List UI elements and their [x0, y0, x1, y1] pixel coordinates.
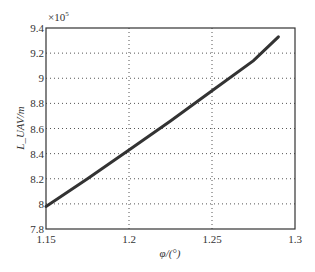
y-multiplier: ×105 [48, 10, 69, 23]
x-axis-ticks: 1.151.21.251.3 [36, 233, 302, 245]
x-tick-label: 1.2 [122, 233, 136, 245]
y-tick-label: 9.2 [30, 47, 44, 59]
y-tick-label: 8.6 [30, 123, 44, 135]
y-tick-label: 7.8 [30, 223, 44, 235]
y-axis-label: L_UAV/m [14, 106, 26, 151]
y-tick-label: 9.4 [30, 22, 44, 34]
x-tick-label: 1.3 [288, 233, 302, 245]
y-tick-label: 8 [39, 198, 45, 210]
x-tick-label: 1.25 [202, 233, 222, 245]
y-tick-label: 8.4 [30, 148, 44, 160]
data-line [46, 37, 278, 207]
y-tick-label: 8.2 [30, 173, 44, 185]
y-axis-ticks: 7.888.28.48.68.899.29.4 [30, 22, 44, 235]
y-tick-label: 8.8 [30, 97, 44, 109]
x-axis-label: φ/(°) [160, 247, 181, 260]
y-tick-label: 9 [39, 72, 45, 84]
line-chart: 1.151.21.251.3 7.888.28.48.68.899.29.4 ×… [0, 0, 315, 272]
